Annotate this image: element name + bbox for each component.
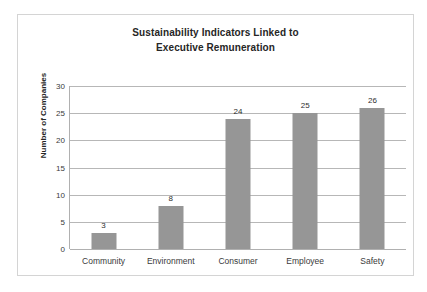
bar-group: 25Employee: [272, 86, 339, 249]
y-axis-tick-label: 0: [61, 245, 65, 254]
bar: [91, 233, 116, 249]
y-axis-title: Number of Companies: [39, 56, 48, 176]
bar: [360, 108, 385, 249]
bar-group: 26Safety: [339, 86, 406, 249]
y-axis-tick-label: 15: [56, 163, 65, 172]
bar-group: 24Consumer: [204, 86, 271, 249]
bar-value-label: 3: [101, 221, 105, 230]
y-axis-tick-label: 30: [56, 82, 65, 91]
bar-value-label: 26: [368, 96, 377, 105]
x-axis-tick-label: Safety: [360, 256, 384, 266]
y-axis-tick-label: 5: [61, 217, 65, 226]
chart-title-line-2: Executive Remuneration: [18, 40, 413, 55]
bar: [158, 206, 183, 249]
bar-group: 3Community: [70, 86, 137, 249]
bar-series: 3Community8Environment24Consumer25Employ…: [70, 86, 406, 249]
plot-area: 051015202530 3Community8Environment24Con…: [69, 86, 405, 249]
bar-value-label: 25: [301, 101, 310, 110]
bar-group: 8Environment: [137, 86, 204, 249]
y-axis-tick-label: 10: [56, 190, 65, 199]
chart-title: Sustainability Indicators Linked to Exec…: [18, 25, 413, 55]
bar-value-label: 8: [169, 194, 173, 203]
x-axis-tick-label: Environment: [147, 256, 195, 266]
y-axis-tick-label: 25: [56, 109, 65, 118]
chart-figure: Sustainability Indicators Linked to Exec…: [17, 14, 414, 276]
bar: [293, 113, 318, 249]
x-axis-tick-label: Consumer: [218, 256, 257, 266]
x-axis-tick-label: Employee: [286, 256, 324, 266]
y-axis-tick-label: 20: [56, 136, 65, 145]
bar-value-label: 24: [234, 107, 243, 116]
gridline: [70, 249, 406, 250]
x-axis-tick-label: Community: [82, 256, 125, 266]
chart-title-line-1: Sustainability Indicators Linked to: [18, 25, 413, 40]
bar: [225, 119, 250, 249]
